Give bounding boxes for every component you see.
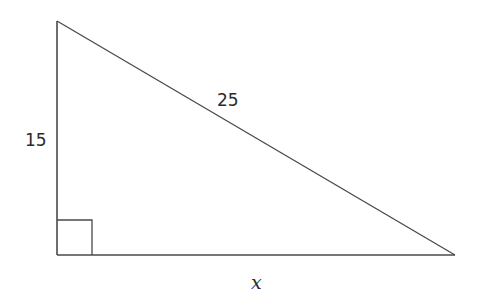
hypotenuse-label: 25 [217, 90, 239, 110]
triangle-diagram: 15 25 x [0, 0, 477, 302]
right-angle-marker [57, 220, 92, 255]
hypotenuse [57, 21, 455, 255]
vertical-leg-label: 15 [25, 130, 47, 150]
horizontal-leg-label: x [251, 271, 262, 293]
